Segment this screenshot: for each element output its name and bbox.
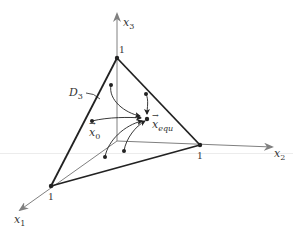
domain-label: D3 xyxy=(69,87,83,101)
initial-state-label: x0 xyxy=(89,127,100,141)
trajectories xyxy=(92,85,148,157)
x3-sub: 3 xyxy=(129,22,134,31)
initial-state-sub: 0 xyxy=(95,132,100,141)
vertex-label-left: 1 xyxy=(48,191,54,202)
x2-sub: 2 xyxy=(280,153,285,162)
start-point xyxy=(109,83,113,87)
equilibrium-point xyxy=(145,117,149,121)
simplex-diagram xyxy=(0,0,293,237)
initial-state-var: x xyxy=(89,127,95,138)
x1-sub: 1 xyxy=(20,219,25,228)
equilibrium-var: x xyxy=(152,119,158,130)
x2-axis-label: x2 xyxy=(274,148,285,162)
start-point xyxy=(103,155,107,159)
axes xyxy=(20,14,272,210)
domain-var: D xyxy=(69,86,78,99)
domain-sub: 3 xyxy=(78,92,83,101)
vertex-label-top: 1 xyxy=(119,44,125,55)
simplex-triangle xyxy=(51,58,200,186)
start-point xyxy=(144,92,148,96)
vertex-label-right: 1 xyxy=(197,150,203,161)
equilibrium-sub: equ xyxy=(158,124,173,133)
start-point xyxy=(122,149,126,153)
x3-axis-label: x3 xyxy=(123,17,134,31)
x1-axis-label: x1 xyxy=(14,214,25,228)
equilibrium-label: xequ xyxy=(152,119,173,133)
